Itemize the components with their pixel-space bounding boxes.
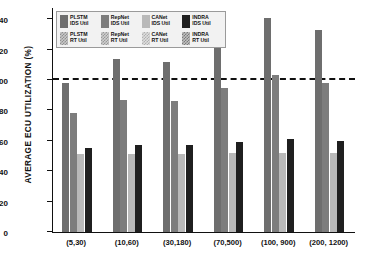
legend-item-indra-ids: INDRAIDS Util (182, 14, 223, 28)
bar-plstm-ids (113, 59, 120, 232)
y-tick-label-100: 100 (0, 76, 8, 85)
bar-plstm-ids (264, 18, 271, 232)
bar-repnet-ids (221, 88, 228, 232)
x-tick-label: (30,180) (163, 238, 191, 247)
y-tick-0 (47, 231, 53, 232)
y-tick-40 (47, 170, 53, 171)
legend-swatch-canet-rt (142, 32, 150, 45)
y-tick-label-40: 40 (0, 168, 8, 177)
legend-item-canet-rt: CANetRT Util (142, 31, 183, 45)
bar-indra-ids (135, 145, 142, 232)
y-tick-120 (47, 49, 53, 50)
x-tick-label: (10,60) (115, 238, 139, 247)
bar-plstm-ids (62, 83, 69, 232)
bar-repnet-ids (272, 75, 279, 232)
x-tick-label: (100, 900) (261, 238, 296, 247)
bar-plstm-ids (163, 62, 170, 232)
bar-group (264, 8, 294, 232)
x-tick-label: (200, 1200) (309, 238, 348, 247)
legend-label-plstm-rt: PLSTMRT Util (70, 31, 88, 43)
bar-plstm-ids (315, 30, 322, 232)
bar-repnet-ids (171, 101, 178, 232)
utilization-threshold-line (53, 78, 355, 80)
ecu-utilization-bar-chart: AVERAGE ECU UTILIZATION (%) 020406080100… (0, 0, 366, 267)
legend-swatch-indra-ids (182, 15, 190, 28)
bar-canet-ids (77, 154, 84, 232)
y-tick-label-60: 60 (0, 137, 8, 146)
y-tick-label-0: 0 (0, 229, 8, 238)
bar-indra-ids (186, 145, 193, 232)
legend-item-repnet-rt: RepNetRT Util (101, 31, 142, 45)
legend-row-rt: PLSTMRT UtilRepNetRT UtilCANetRT UtilIND… (60, 31, 223, 45)
legend-label-repnet-rt: RepNetRT Util (111, 31, 129, 43)
legend-label-canet-ids: CANetIDS Util (152, 14, 170, 26)
legend-swatch-plstm-ids (60, 15, 68, 28)
bar-indra-ids (85, 148, 92, 232)
legend-item-plstm-rt: PLSTMRT Util (60, 31, 101, 45)
chart-legend: PLSTMIDS UtilRepNetIDS UtilCANetIDS Util… (56, 11, 226, 48)
bar-repnet-ids (120, 100, 127, 232)
y-tick-80 (47, 109, 53, 110)
y-tick-60 (47, 140, 53, 141)
legend-item-repnet-ids: RepNetIDS Util (101, 14, 142, 28)
x-tick-label: (70,500) (214, 238, 242, 247)
bar-repnet-ids (322, 83, 329, 232)
legend-item-canet-ids: CANetIDS Util (142, 14, 183, 28)
bar-canet-ids (330, 153, 337, 232)
legend-label-repnet-ids: RepNetIDS Util (111, 14, 129, 26)
legend-swatch-repnet-ids (101, 15, 109, 28)
legend-label-indra-rt: INDRART Util (192, 31, 209, 43)
bar-canet-ids (178, 154, 185, 232)
y-axis-title: AVERAGE ECU UTILIZATION (%) (24, 30, 33, 200)
y-tick-label-20: 20 (0, 198, 8, 207)
legend-item-plstm-ids: PLSTMIDS Util (60, 14, 101, 28)
bar-indra-ids (236, 142, 243, 232)
legend-label-plstm-ids: PLSTMIDS Util (70, 14, 88, 26)
legend-swatch-indra-rt (182, 32, 190, 45)
legend-label-indra-ids: INDRAIDS Util (192, 14, 210, 26)
legend-swatch-canet-ids (142, 15, 150, 28)
bar-canet-ids (279, 153, 286, 232)
legend-label-canet-rt: CANetRT Util (152, 31, 169, 43)
y-tick-label-120: 120 (0, 46, 8, 55)
bar-indra-ids (287, 139, 294, 232)
legend-item-indra-rt: INDRART Util (182, 31, 223, 45)
legend-swatch-plstm-rt (60, 32, 68, 45)
bar-repnet-ids (70, 113, 77, 232)
legend-row-ids: PLSTMIDS UtilRepNetIDS UtilCANetIDS Util… (60, 14, 223, 28)
bar-group (315, 8, 345, 232)
bar-canet-ids (128, 154, 135, 232)
bar-plstm-ids (214, 39, 221, 232)
bar-canet-ids (229, 153, 236, 232)
y-tick-label-80: 80 (0, 107, 8, 116)
y-tick-140 (47, 18, 53, 19)
x-tick-label: (5,30) (66, 238, 86, 247)
bar-indra-ids (337, 141, 344, 232)
y-tick-label-140: 140 (0, 16, 8, 25)
legend-swatch-repnet-rt (101, 32, 109, 45)
y-tick-20 (47, 201, 53, 202)
